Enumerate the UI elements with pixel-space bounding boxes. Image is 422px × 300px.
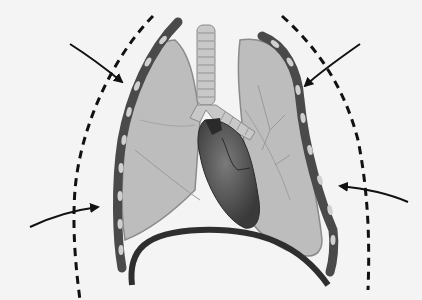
arrow-lower-right [340,186,408,202]
right-lung [122,40,200,240]
thorax-diagram [0,0,422,300]
arrow-lower-left [30,207,98,227]
arrow-upper-left [70,44,122,82]
thorax-illustration [0,0,422,300]
